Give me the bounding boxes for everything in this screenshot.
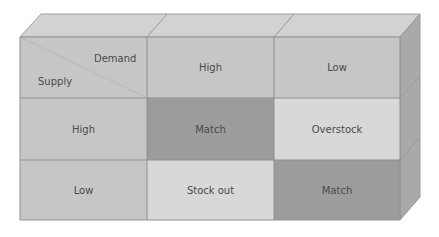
supply-axis-label: Supply	[38, 76, 72, 87]
demand-axis-label: Demand	[94, 53, 136, 64]
cell-low-low: Match	[274, 160, 400, 220]
cell-low-high: Stock out	[147, 160, 274, 220]
row-header-low: Low	[20, 160, 147, 220]
cell-high-high: Match	[147, 98, 274, 160]
column-header-high: High	[147, 37, 274, 98]
column-header-low: Low	[274, 37, 400, 98]
cell-high-low: Overstock	[274, 98, 400, 160]
row-header-high: High	[20, 98, 147, 160]
supply-demand-matrix: Demand Supply High Low High Low Match Ov…	[0, 0, 439, 237]
